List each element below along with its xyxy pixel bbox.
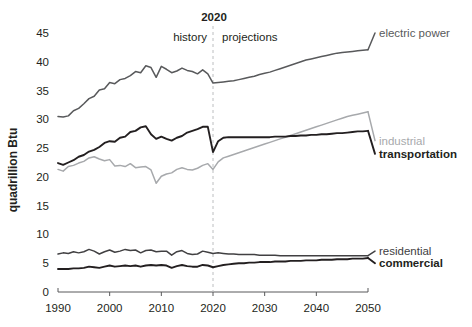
y-tick-35: 35 [36, 85, 49, 97]
series-leader-residential [368, 251, 375, 256]
x-tick-2000: 2000 [97, 302, 123, 314]
projections-label: projections [222, 31, 278, 43]
series-label-transportation: transportation [379, 148, 457, 160]
x-tick-2030: 2030 [252, 302, 278, 314]
x-tick-2050: 2050 [355, 302, 381, 314]
y-tick-0: 0 [43, 286, 49, 298]
y-tick-10: 10 [36, 228, 49, 240]
chart-container: 051015202530354045 199020002010202020302… [0, 0, 472, 327]
y-tick-15: 15 [36, 200, 49, 212]
y-axis-tick-labels: 051015202530354045 [36, 27, 49, 298]
series-lines [58, 33, 375, 269]
x-tick-1990: 1990 [45, 302, 71, 314]
series-label-industrial: industrial [379, 135, 425, 147]
y-tick-25: 25 [36, 142, 49, 154]
energy-consumption-line-chart: 051015202530354045 199020002010202020302… [0, 0, 472, 327]
history-label: history [173, 31, 207, 43]
series-leader-commercial [368, 258, 375, 263]
series-line-commercial [58, 258, 368, 269]
series-label-residential: residential [379, 245, 431, 257]
x-tick-2020: 2020 [200, 302, 226, 314]
x-tick-2010: 2010 [149, 302, 175, 314]
series-label-electric-power: electric power [379, 27, 450, 39]
y-tick-5: 5 [43, 257, 49, 269]
x-tick-2040: 2040 [304, 302, 330, 314]
y-axis-title: quadrillion Btu [6, 128, 20, 213]
y-tick-20: 20 [36, 171, 49, 183]
y-tick-30: 30 [36, 113, 49, 125]
series-labels: electric powerindustrialtransportationre… [379, 27, 457, 269]
series-leader-electric-power [368, 33, 375, 50]
x-axis-tick-labels: 1990200020102020203020402050 [45, 302, 381, 314]
series-label-commercial: commercial [379, 257, 443, 269]
y-tick-45: 45 [36, 27, 49, 39]
y-tick-40: 40 [36, 56, 49, 68]
divider-year-label: 2020 [201, 11, 227, 23]
